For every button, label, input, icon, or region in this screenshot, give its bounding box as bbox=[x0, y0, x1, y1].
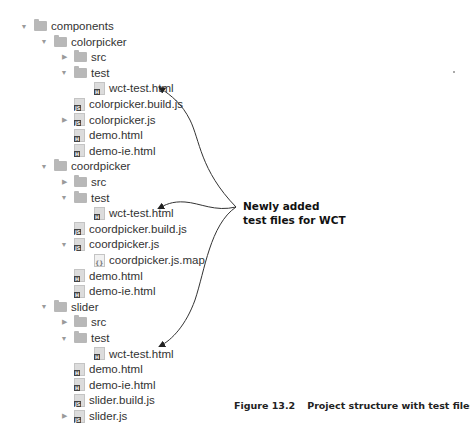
scan-speck bbox=[453, 71, 455, 73]
callout-line-1: Newly added bbox=[243, 199, 346, 213]
callout-line-2: test files for WCT bbox=[243, 213, 346, 227]
arrow-to-slider-test bbox=[160, 207, 236, 346]
arrow-to-colorpicker-test bbox=[160, 88, 236, 207]
figure-title: Project structure with test files bbox=[307, 400, 470, 411]
callout-label: Newly added test files for WCT bbox=[243, 199, 346, 227]
arrow-to-coordpicker-test bbox=[159, 202, 236, 209]
figure-number: Figure 13.2 bbox=[234, 400, 295, 411]
callout-arrows bbox=[0, 0, 470, 435]
figure-caption: Figure 13.2Project structure with test f… bbox=[234, 400, 470, 411]
